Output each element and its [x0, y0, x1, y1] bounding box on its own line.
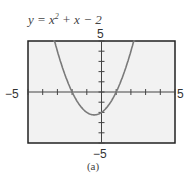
graph: 5 −5 −5 5	[0, 0, 186, 184]
figure-caption: (a)	[0, 160, 186, 172]
y-min-label: −5	[93, 147, 107, 161]
y-max-label: 5	[97, 27, 104, 41]
x-max-label: 5	[177, 87, 184, 101]
x-min-label: −5	[5, 87, 19, 101]
